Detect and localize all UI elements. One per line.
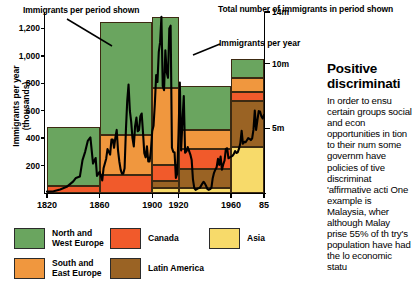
x-tick-mark bbox=[263, 194, 264, 198]
y-tick-mark bbox=[41, 83, 45, 84]
y-tick-label-800: 800 bbox=[6, 78, 40, 88]
x-axis-line bbox=[44, 193, 266, 194]
x-tick-mark bbox=[152, 194, 153, 198]
legend-label-line1: Latin America bbox=[148, 263, 204, 273]
legend-label: North andWest Europe bbox=[52, 228, 104, 248]
x-tick-label-1860: 1860 bbox=[80, 200, 120, 210]
y-tick-label-200: 200 bbox=[6, 161, 40, 171]
period-annotation-leader bbox=[66, 18, 116, 48]
article-heading: Positive discriminati bbox=[327, 62, 412, 91]
legend-label: Canada bbox=[148, 233, 179, 243]
legend-swatch-asia[interactable] bbox=[209, 228, 240, 249]
right-tick-label-10m: 10m bbox=[272, 59, 289, 69]
x-tick-label-1920: 1920 bbox=[159, 200, 199, 210]
x-tick-mark bbox=[178, 194, 179, 198]
legend-swatch-south-and[interactable] bbox=[14, 258, 45, 279]
y-tick-mark bbox=[41, 28, 45, 29]
right-tick-label-5m: 5m bbox=[272, 123, 284, 133]
y-tick-label-400: 400 bbox=[6, 133, 40, 143]
x-tick-mark bbox=[46, 194, 47, 198]
chart-figure: Immigrants per period shown Total number… bbox=[0, 0, 412, 288]
y-tick-mark bbox=[41, 55, 45, 56]
y-tick-mark bbox=[41, 110, 45, 111]
legend-swatch-latin-america[interactable] bbox=[110, 258, 141, 279]
right-tick-mark bbox=[265, 63, 270, 64]
legend-label-line1: South and bbox=[52, 258, 102, 268]
legend-swatch-canada[interactable] bbox=[110, 228, 141, 249]
line-annotation-leader bbox=[190, 36, 222, 56]
x-tick-label-1820: 1820 bbox=[27, 200, 67, 210]
legend-label: South andEast Europe bbox=[52, 258, 102, 278]
x-tick-mark bbox=[99, 194, 100, 198]
right-tick-label-14m: 14m bbox=[272, 7, 289, 17]
y-tick-mark bbox=[41, 165, 45, 166]
legend-swatch-north-and[interactable] bbox=[14, 228, 45, 249]
article-heading-line2: discriminati bbox=[327, 77, 412, 92]
y-tick-label-1000: 1,000 bbox=[6, 51, 40, 61]
legend-label: Latin America bbox=[148, 263, 204, 273]
article-heading-line1: Positive bbox=[327, 62, 412, 77]
article-column: Positive discriminati In order to ensu c… bbox=[327, 62, 412, 273]
line-annotation-label: Immigrants per year bbox=[219, 38, 300, 48]
legend-label-line2: East Europe bbox=[52, 268, 102, 278]
y-tick-mark bbox=[41, 137, 45, 138]
x-tick-mark bbox=[230, 194, 231, 198]
legend-label-line2: West Europe bbox=[52, 238, 104, 248]
article-body: In order to ensu certain groups social a… bbox=[327, 95, 412, 273]
right-tick-mark bbox=[265, 11, 270, 12]
y-axis-line bbox=[44, 12, 45, 194]
y-tick-label-600: 600 bbox=[6, 106, 40, 116]
legend-label: Asia bbox=[247, 233, 265, 243]
article-body-text: In order to ensu certain groups social a… bbox=[327, 95, 412, 273]
legend-label-line1: Asia bbox=[247, 233, 265, 243]
legend-label-line1: Canada bbox=[148, 233, 179, 243]
right-tick-mark bbox=[265, 128, 270, 129]
legend-label-line1: North and bbox=[52, 228, 104, 238]
y-tick-label-1200: 1,200 bbox=[6, 23, 40, 33]
x-tick-label-85: 85 bbox=[244, 200, 284, 210]
